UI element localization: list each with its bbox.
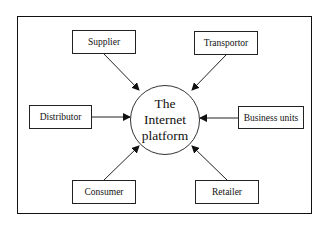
node-label: Retailer bbox=[212, 187, 242, 197]
node-label: Transportor bbox=[204, 38, 249, 48]
arrow-consumer-to-hub bbox=[104, 146, 139, 180]
node-business-units: Business units bbox=[238, 106, 304, 129]
node-distributor: Distributor bbox=[29, 105, 92, 129]
node-supplier: Supplier bbox=[72, 30, 136, 54]
node-label: Business units bbox=[244, 113, 299, 123]
hub-line-3: platform bbox=[142, 128, 189, 144]
hub-line-2: Internet bbox=[144, 112, 186, 128]
node-label: Consumer bbox=[84, 187, 123, 197]
node-retailer: Retailer bbox=[195, 180, 259, 204]
internet-platform-hub: The Internet platform bbox=[130, 85, 200, 155]
node-transportor: Transportor bbox=[194, 31, 258, 55]
hub-line-1: The bbox=[155, 96, 176, 112]
arrow-transportor-to-hub bbox=[192, 55, 226, 90]
node-label: Supplier bbox=[88, 37, 120, 47]
arrow-retailer-to-hub bbox=[192, 146, 227, 180]
node-label: Distributor bbox=[40, 112, 82, 122]
arrow-supplier-to-hub bbox=[104, 54, 139, 90]
node-consumer: Consumer bbox=[72, 180, 136, 204]
